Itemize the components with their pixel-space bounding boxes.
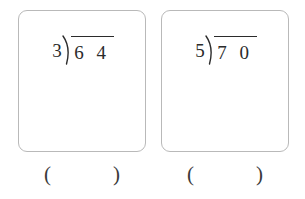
answer-input-1[interactable]: [51, 163, 113, 185]
work-area-box-1[interactable]: 3 6 4: [18, 10, 146, 152]
long-division-expression-2: 5 7 0: [162, 35, 290, 66]
divisor-2: 5: [195, 35, 205, 64]
answer-open-paren-1: (: [44, 164, 51, 185]
long-division-expression-1: 3 6 4: [19, 35, 147, 66]
division-bracket-icon-2: [205, 35, 214, 65]
dividend-1: 6 4: [71, 36, 114, 66]
answer-parentheses-2: ( ): [161, 158, 289, 190]
division-problem-1: 3 6 4 ( ): [8, 0, 154, 199]
answer-input-2[interactable]: [194, 163, 256, 185]
division-bracket-icon-1: [62, 35, 71, 65]
answer-open-paren-2: (: [187, 164, 194, 185]
division-problem-2: 5 7 0 ( ): [151, 0, 297, 199]
answer-close-paren-1: ): [113, 164, 120, 185]
divisor-1: 3: [52, 35, 62, 64]
work-area-box-2[interactable]: 5 7 0: [161, 10, 289, 152]
dividend-2: 7 0: [214, 36, 257, 66]
answer-parentheses-1: ( ): [18, 158, 146, 190]
worksheet: 3 6 4 ( ) 5: [0, 0, 305, 199]
answer-close-paren-2: ): [256, 164, 263, 185]
